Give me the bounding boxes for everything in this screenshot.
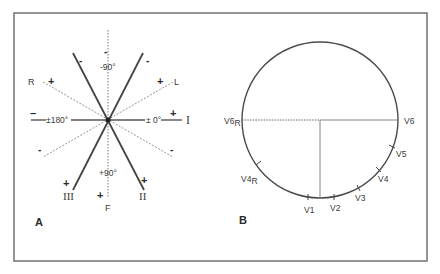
label-plus-minus-180: ±180° bbox=[46, 115, 68, 125]
sign-i-positive: + bbox=[170, 107, 176, 119]
tick-v4r bbox=[256, 161, 261, 165]
center-hub bbox=[106, 118, 111, 123]
sign-ii-positive: + bbox=[141, 174, 147, 186]
label-v6r: V6R bbox=[224, 116, 241, 128]
label-v1: V1 bbox=[304, 205, 315, 215]
label-minus-90: -90° bbox=[100, 62, 116, 72]
sign-ii-negative: - bbox=[79, 55, 82, 66]
sign-avf-positive: + bbox=[97, 189, 103, 201]
label-v5: V5 bbox=[396, 149, 407, 159]
panel-a-hexaxial: -90° +90° ±180° ± 0° I II III R L F - - … bbox=[28, 30, 190, 228]
label-v4r: V4R bbox=[241, 174, 258, 186]
sign-avr-negative: - bbox=[170, 144, 173, 155]
panel-b-label: B bbox=[239, 214, 247, 226]
label-v4: V4 bbox=[378, 174, 389, 184]
figure-frame bbox=[14, 13, 427, 261]
label-v3: V3 bbox=[355, 193, 366, 203]
label-v2: V2 bbox=[330, 203, 341, 213]
ecg-lead-diagram: -90° +90° ±180° ± 0° I II III R L F - - … bbox=[0, 0, 440, 274]
sign-avl-positive: + bbox=[157, 75, 163, 87]
lead-label-ii: II bbox=[139, 190, 147, 202]
sign-avf-negative: - bbox=[104, 46, 107, 57]
lead-label-r: R bbox=[28, 77, 35, 87]
label-plus-minus-0: ± 0° bbox=[146, 115, 161, 125]
sign-iii-positive: + bbox=[63, 177, 69, 189]
lead-label-l: L bbox=[174, 77, 179, 87]
label-v6: V6 bbox=[404, 116, 415, 126]
sign-avr-positive: + bbox=[48, 75, 54, 87]
lead-label-i: I bbox=[186, 113, 190, 127]
sign-avl-negative: - bbox=[38, 144, 41, 155]
label-plus-90: +90° bbox=[99, 168, 117, 178]
lead-label-iii: III bbox=[63, 190, 74, 202]
panel-a-label: A bbox=[35, 216, 43, 228]
sign-i-negative: – bbox=[30, 107, 36, 119]
sign-iii-negative: - bbox=[146, 55, 149, 66]
panel-b-precordial: V6R V4R V6 V5 V4 V3 V2 V1 B bbox=[224, 42, 415, 226]
lead-label-f: F bbox=[105, 203, 111, 213]
